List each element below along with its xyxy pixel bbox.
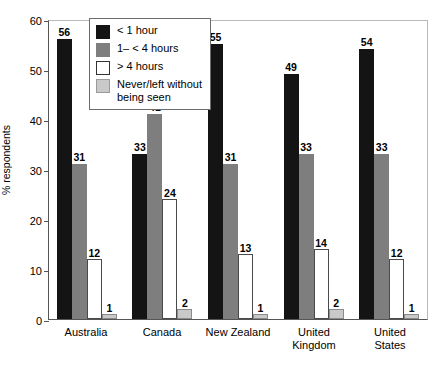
bar-slot: 1	[404, 21, 419, 319]
legend-swatch-icon	[96, 43, 110, 57]
bar-group: 5433121	[351, 21, 427, 319]
bar-value-label: 2	[182, 298, 188, 309]
bar-group: 5531131	[200, 21, 276, 319]
x-axis-label: United Kingdom	[276, 326, 352, 352]
bar-value-label: 33	[300, 142, 312, 153]
bar[interactable]: 1	[253, 314, 268, 319]
bar-value-label: 12	[391, 248, 403, 259]
chart-legend: < 1 hour1– < 4 hours> 4 hoursNever/left …	[89, 18, 211, 110]
bar-slot: 49	[284, 21, 299, 319]
legend-item[interactable]: 1– < 4 hours	[96, 42, 202, 57]
bar[interactable]: 13	[238, 254, 253, 319]
legend-label: Never/left without being seen	[117, 78, 202, 104]
y-axis-tick-0: 0	[36, 316, 49, 327]
bar-slot: 2	[329, 21, 344, 319]
bar-value-label: 24	[164, 188, 176, 199]
bar[interactable]: 2	[177, 309, 192, 319]
bar[interactable]: 54	[359, 49, 374, 319]
bar-slot: 31	[72, 21, 87, 319]
bar-value-label: 33	[376, 142, 388, 153]
bar[interactable]: 49	[284, 74, 299, 319]
bar-value-label: 13	[240, 243, 252, 254]
bar-slot: 31	[223, 21, 238, 319]
bar[interactable]: 2	[329, 309, 344, 319]
bar[interactable]: 1	[102, 314, 117, 319]
bar-value-label: 14	[315, 238, 327, 249]
bar-slot: 33	[374, 21, 389, 319]
x-axis-label: United States	[352, 326, 428, 352]
bar-slot: 1	[253, 21, 268, 319]
bar-value-label: 1	[258, 303, 264, 314]
bar-value-label: 31	[73, 152, 85, 163]
bar-value-label: 56	[58, 27, 70, 38]
bar[interactable]: 12	[87, 259, 102, 319]
bar-chart: % respondents 0102030405060 563112133412…	[0, 0, 446, 368]
bar-value-label: 49	[285, 62, 297, 73]
x-axis-label: Australia	[48, 326, 124, 352]
bar[interactable]: 33	[299, 154, 314, 319]
bar[interactable]: 24	[162, 199, 177, 319]
bar[interactable]: 14	[314, 249, 329, 319]
bar[interactable]: 56	[57, 39, 72, 319]
bar-slot: 54	[359, 21, 374, 319]
legend-label: < 1 hour	[117, 24, 158, 37]
bar-value-label: 1	[409, 303, 415, 314]
x-axis-label: Canada	[124, 326, 200, 352]
bar-slot: 33	[299, 21, 314, 319]
y-axis-tick-30: 30	[30, 166, 49, 177]
x-axis-labels: AustraliaCanadaNew ZealandUnited Kingdom…	[48, 326, 428, 352]
bar-value-label: 54	[361, 37, 373, 48]
bar[interactable]: 33	[374, 154, 389, 319]
y-axis-title: % respondents	[0, 125, 12, 195]
bar[interactable]: 31	[72, 164, 87, 319]
bar[interactable]: 12	[389, 259, 404, 319]
bar-value-label: 31	[225, 152, 237, 163]
y-axis-tick-40: 40	[30, 116, 49, 127]
bar-value-label: 1	[106, 303, 112, 314]
legend-swatch-icon	[96, 25, 110, 39]
legend-item[interactable]: < 1 hour	[96, 24, 202, 39]
bar-slot: 56	[57, 21, 72, 319]
y-axis-tick-20: 20	[30, 216, 49, 227]
legend-label: > 4 hours	[117, 60, 163, 73]
bar[interactable]: 33	[132, 154, 147, 319]
bar-slot: 14	[314, 21, 329, 319]
legend-item[interactable]: > 4 hours	[96, 60, 202, 75]
bar-value-label: 2	[333, 298, 339, 309]
bar-slot: 13	[238, 21, 253, 319]
legend-swatch-icon	[96, 61, 110, 75]
y-axis-tick-50: 50	[30, 66, 49, 77]
y-axis-tick-10: 10	[30, 266, 49, 277]
bar-slot: 12	[389, 21, 404, 319]
bar-value-label: 33	[134, 142, 146, 153]
legend-label: 1– < 4 hours	[117, 42, 178, 55]
legend-item[interactable]: Never/left without being seen	[96, 78, 202, 104]
x-axis-label: New Zealand	[200, 326, 276, 352]
bar-value-label: 12	[88, 248, 100, 259]
bar[interactable]: 31	[223, 164, 238, 319]
bar[interactable]: 1	[404, 314, 419, 319]
bar-value-label: 55	[210, 32, 222, 43]
legend-swatch-icon	[96, 79, 110, 93]
bar-group: 4933142	[276, 21, 352, 319]
y-axis-tick-60: 60	[30, 16, 49, 27]
bar[interactable]: 41	[147, 114, 162, 319]
